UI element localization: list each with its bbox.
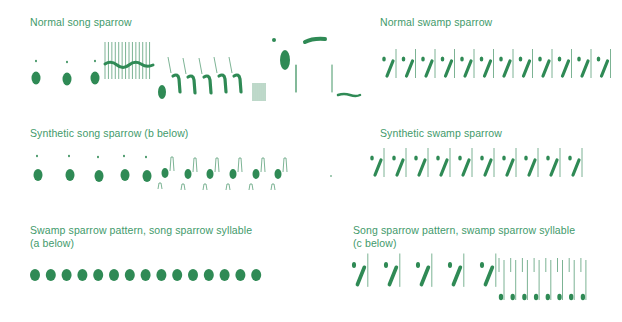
spectrograms xyxy=(0,0,622,322)
song-pattern-swamp-syllable-spectrogram xyxy=(352,254,586,301)
synthetic-song-spectrogram xyxy=(34,155,332,190)
normal-swamp-spectrogram xyxy=(382,49,610,78)
synthetic-swamp-spectrogram xyxy=(370,148,582,177)
normal-song-spectrogram xyxy=(32,38,361,101)
swamp-pattern-song-syllable-spectrogram xyxy=(30,269,261,281)
